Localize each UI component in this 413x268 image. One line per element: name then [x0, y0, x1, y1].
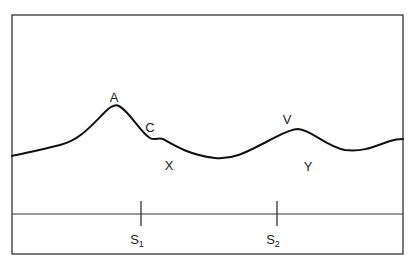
station-subscript: 2 [275, 239, 280, 249]
station-label-s2: S2 [266, 232, 280, 249]
point-labels: ACXVY [110, 90, 313, 174]
point-label-y: Y [304, 159, 313, 174]
station-subscript: 1 [139, 239, 144, 249]
point-label-a: A [110, 90, 119, 105]
point-label-v: V [283, 112, 292, 127]
profile-curve [12, 105, 403, 158]
profile-diagram: ACXVY S1S2 [0, 0, 413, 268]
station-label-s1: S1 [130, 232, 144, 249]
diagram-frame [12, 15, 403, 254]
point-label-c: C [145, 120, 154, 135]
station-markers: S1S2 [130, 201, 280, 249]
point-label-x: X [165, 158, 174, 173]
